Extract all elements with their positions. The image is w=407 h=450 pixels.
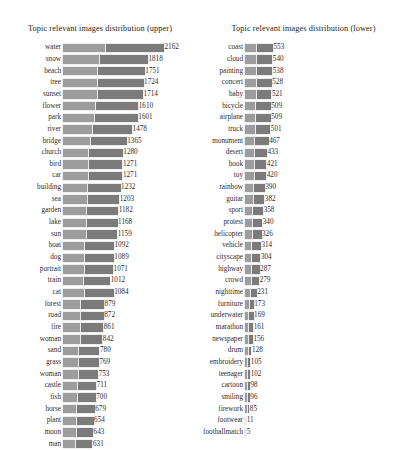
bar <box>63 184 121 192</box>
bar-row: cat1084 <box>0 287 200 299</box>
bar-row-label: fire <box>0 324 63 331</box>
bar-row: sport358 <box>200 205 407 217</box>
bar-row-label: flower <box>0 103 63 110</box>
bar-segment-light <box>245 44 256 52</box>
bar-segment-dark <box>76 417 94 425</box>
bar-row: building1232 <box>0 182 200 194</box>
bar-row: protest340 <box>200 217 407 229</box>
bar-value-label: 11 <box>246 417 253 424</box>
bar-row-label: water <box>0 44 63 51</box>
bar <box>245 172 266 180</box>
bar-value-label: 1168 <box>118 219 133 226</box>
bar-segment-light <box>245 230 252 238</box>
bar-row: sun1159 <box>0 229 200 241</box>
bar-value-label: 1724 <box>144 79 159 86</box>
bar <box>245 79 272 87</box>
bar-row: snow1818 <box>0 54 200 66</box>
bar-value-label: 700 <box>96 394 107 401</box>
bar-row: man631 <box>0 438 200 450</box>
bar <box>63 67 145 75</box>
bar-row-label: protest <box>200 219 245 226</box>
bar <box>245 289 257 297</box>
bar-row: cloud540 <box>200 54 407 66</box>
bar-row: concert528 <box>200 77 407 89</box>
bar-value-label: 102 <box>250 371 261 378</box>
bar-row: rainbow390 <box>200 182 407 194</box>
bar <box>245 184 265 192</box>
bar-row-label: drum <box>200 347 245 354</box>
bar-row: underwater169 <box>200 310 407 322</box>
bar-segment-light <box>63 230 86 238</box>
bar-segment-light <box>245 90 256 98</box>
bar-segment-dark <box>256 90 272 98</box>
bar-value-label: 421 <box>266 161 277 168</box>
bar-value-label: 390 <box>265 184 276 191</box>
bar-row-label: man <box>0 441 63 448</box>
bar-value-label: 1071 <box>113 266 128 273</box>
bar-row-label: sea <box>0 196 63 203</box>
bar-row-label: vehicle <box>200 242 245 249</box>
bar-value-label: 1365 <box>127 138 142 145</box>
bar-segment-dark <box>252 219 262 227</box>
bar-segment-light <box>245 184 253 192</box>
bar-row-label: concert <box>200 79 245 86</box>
bar-value-label: 643 <box>93 429 104 436</box>
bar-row-label: desert <box>200 149 245 156</box>
bar-row: bicycle509 <box>200 100 407 112</box>
bar-segment-light <box>63 149 88 157</box>
bar-segment-light <box>63 393 77 401</box>
chart-panel-lower: Topic relevant images distribution (lowe… <box>200 0 407 445</box>
bar-value-label: 1159 <box>117 231 132 238</box>
bar-value-label: 1232 <box>121 184 136 191</box>
bar-segment-light <box>63 125 92 133</box>
bar-segment-light <box>63 417 76 425</box>
bar-value-label: 231 <box>257 289 268 296</box>
bar <box>245 254 260 262</box>
bar-segment-light <box>63 312 80 320</box>
bar-value-label: 509 <box>271 103 282 110</box>
bar-segment-light <box>245 195 253 203</box>
bar-value-label: 1203 <box>119 196 134 203</box>
bar-segment-light <box>245 207 252 215</box>
bar-row: grass769 <box>0 357 200 369</box>
bar-value-label: 1280 <box>123 149 138 156</box>
bar-segment-dark <box>80 300 104 308</box>
bar-row: woman842 <box>0 334 200 346</box>
bar-value-label: 769 <box>99 359 110 366</box>
bar <box>63 102 138 110</box>
bar-segment-dark <box>80 335 103 343</box>
bar-segment-dark <box>88 160 122 168</box>
bar-row-label: moon <box>0 429 63 436</box>
bar-segment-dark <box>77 382 96 390</box>
bar-segment-dark <box>87 195 120 203</box>
bar <box>245 219 262 227</box>
bar-row-label: fish <box>0 394 63 401</box>
bar-segment-dark <box>255 114 270 122</box>
bar <box>63 323 103 331</box>
bar-value-label: 85 <box>249 406 257 413</box>
bar-row-label: bird <box>0 161 63 168</box>
bar-segment-dark <box>90 137 127 145</box>
bar-row-label: cartoon <box>200 382 245 389</box>
bar-row: highway287 <box>200 264 407 276</box>
bar-row-label: nighttime <box>200 289 245 296</box>
bar-row: train1012 <box>0 275 200 287</box>
bar-value-label: 540 <box>272 56 283 63</box>
bar-row-label: river <box>0 126 63 133</box>
bar-value-label: 753 <box>98 371 109 378</box>
bar-row-label: truck <box>200 126 245 133</box>
bar-row: airplane509 <box>200 112 407 124</box>
bar <box>245 323 253 331</box>
bar-value-label: 326 <box>262 231 273 238</box>
bar-row-label: tree <box>0 79 63 86</box>
bar <box>63 79 144 87</box>
bar <box>63 219 118 227</box>
bar-segment-light <box>63 347 78 355</box>
chart-panel-upper: Topic relevant images distribution (uppe… <box>0 0 200 445</box>
bar-segment-light <box>63 160 88 168</box>
bar-row-label: garden <box>0 207 63 214</box>
bar-segment-light <box>63 44 105 52</box>
bar-value-label: 314 <box>261 242 272 249</box>
bar-value-label: 340 <box>262 219 273 226</box>
bar-segment-dark <box>86 207 118 215</box>
